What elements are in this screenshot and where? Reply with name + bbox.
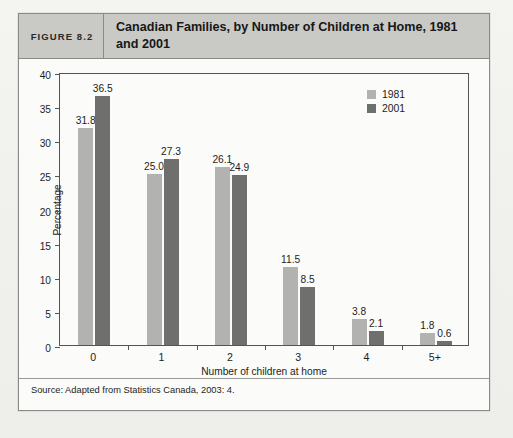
bar-value-label: 3.8 bbox=[352, 306, 366, 317]
y-axis-tick-label: 20 bbox=[40, 206, 51, 217]
figure-header: FIGURE 8.2 Canadian Families, by Number … bbox=[19, 14, 489, 59]
bar-1981-5+: 1.8 bbox=[420, 333, 435, 345]
legend-swatch-icon-2001 bbox=[367, 104, 376, 113]
bar-2001-1: 27.3 bbox=[164, 159, 179, 345]
x-axis-tick bbox=[197, 345, 198, 350]
y-axis-tick: 5 bbox=[55, 313, 60, 314]
bar-group: 25.027.3 bbox=[147, 74, 179, 345]
figure-title: Canadian Families, by Number of Children… bbox=[104, 14, 489, 58]
y-axis-tick: 0 bbox=[55, 347, 60, 348]
y-axis-tick: 20 bbox=[55, 211, 60, 212]
legend-item-1981: 1981 bbox=[367, 89, 405, 100]
bar-1981-2: 26.1 bbox=[215, 167, 230, 345]
legend-swatch-icon-1981 bbox=[367, 90, 376, 99]
plot-area: Percentage 051015202530354031.836.525.02… bbox=[59, 73, 469, 346]
bar-group: 1.80.6 bbox=[420, 74, 452, 345]
y-axis-tick: 10 bbox=[55, 279, 60, 280]
bar-1981-1: 25.0 bbox=[147, 174, 162, 345]
y-axis-tick-label: 10 bbox=[40, 274, 51, 285]
y-axis-tick-label: 5 bbox=[45, 308, 51, 319]
y-axis-tick-label: 25 bbox=[40, 172, 51, 183]
y-axis-tick: 40 bbox=[55, 74, 60, 75]
legend-label-2001: 2001 bbox=[382, 103, 405, 114]
x-axis-label-2: 2 bbox=[227, 351, 233, 363]
bar-value-label: 8.5 bbox=[301, 274, 315, 285]
figure-source: Source: Adapted from Statistics Canada, … bbox=[31, 385, 235, 395]
bar-group: 31.836.5 bbox=[78, 74, 110, 345]
x-axis-tick bbox=[265, 345, 266, 350]
chart-legend: 1981 2001 bbox=[367, 89, 405, 117]
y-axis-tick-label: 40 bbox=[40, 70, 51, 81]
bar-1981-0: 31.8 bbox=[78, 128, 93, 345]
x-axis-tick-labels: 012345+ bbox=[59, 351, 469, 367]
source-divider bbox=[19, 378, 489, 379]
x-axis-label-5+: 5+ bbox=[429, 351, 441, 363]
bar-value-label: 11.5 bbox=[281, 254, 300, 265]
x-axis-label-0: 0 bbox=[90, 351, 96, 363]
bar-value-label: 25.0 bbox=[144, 161, 164, 172]
x-axis-tick bbox=[128, 345, 129, 350]
bar-value-label: 31.8 bbox=[76, 115, 96, 126]
bar-value-label: 2.1 bbox=[369, 318, 383, 329]
bar-value-label: 27.3 bbox=[161, 146, 181, 157]
x-axis-label-4: 4 bbox=[364, 351, 370, 363]
bar-2001-2: 24.9 bbox=[232, 175, 247, 345]
chart-region: Percentage 051015202530354031.836.525.02… bbox=[19, 59, 489, 379]
bar-2001-3: 8.5 bbox=[300, 287, 315, 345]
legend-item-2001: 2001 bbox=[367, 103, 405, 114]
x-axis-tick bbox=[333, 345, 334, 350]
y-axis-tick-label: 35 bbox=[40, 104, 51, 115]
y-axis-tick-label: 15 bbox=[40, 240, 51, 251]
bar-2001-0: 36.5 bbox=[95, 96, 110, 345]
y-axis-tick: 25 bbox=[55, 176, 60, 177]
bar-2001-5+: 0.6 bbox=[437, 341, 452, 345]
bar-group: 26.124.9 bbox=[215, 74, 247, 345]
y-axis-tick: 35 bbox=[55, 108, 60, 109]
x-axis-label-3: 3 bbox=[295, 351, 301, 363]
y-axis-tick: 15 bbox=[55, 245, 60, 246]
bar-value-label: 24.9 bbox=[229, 162, 249, 173]
legend-label-1981: 1981 bbox=[382, 89, 405, 100]
bar-value-label: 0.6 bbox=[437, 328, 451, 339]
y-axis-title: Percentage bbox=[52, 184, 63, 235]
x-axis-tick bbox=[402, 345, 403, 350]
bar-value-label: 36.5 bbox=[93, 83, 113, 94]
bar-1981-3: 11.5 bbox=[283, 267, 298, 345]
figure-container: FIGURE 8.2 Canadian Families, by Number … bbox=[18, 13, 490, 411]
y-axis-tick-label: 0 bbox=[45, 343, 51, 354]
bar-1981-4: 3.8 bbox=[352, 319, 367, 345]
bar-value-label: 1.8 bbox=[420, 320, 434, 331]
x-axis-title: Number of children at home bbox=[59, 366, 469, 377]
y-axis-tick-label: 30 bbox=[40, 138, 51, 149]
y-axis-tick: 30 bbox=[55, 142, 60, 143]
bar-2001-4: 2.1 bbox=[369, 331, 384, 345]
bar-group: 11.58.5 bbox=[283, 74, 315, 345]
figure-number: FIGURE 8.2 bbox=[19, 14, 104, 58]
x-axis-label-1: 1 bbox=[159, 351, 165, 363]
